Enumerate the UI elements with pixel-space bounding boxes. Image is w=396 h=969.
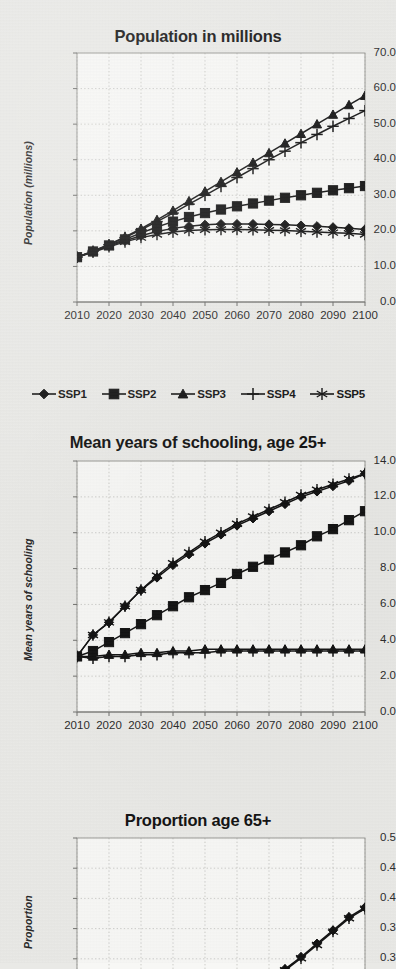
x-axis-tick-label: 2100 [352, 310, 378, 322]
y-axis-tick-label: 10.0 [327, 526, 396, 538]
chart-title-population: Population in millions [0, 28, 396, 45]
triangle-marker [170, 386, 196, 402]
x-axis-tick-label: 2040 [160, 720, 186, 732]
y-axis-tick-label: 30.0 [327, 189, 396, 201]
y-axis-tick-label: 14.0 [327, 455, 396, 467]
x-axis-tick-label: 2070 [256, 310, 282, 322]
plot-background [77, 838, 365, 969]
plot-area-schooling: 14.012.010.08.06.04.02.00.02010202020302… [0, 451, 396, 761]
legend-item-ssp1[interactable]: SSP1 [31, 386, 87, 402]
legend-item-ssp5[interactable]: SSP5 [309, 386, 365, 402]
y-axis-label-proportion65: Proportion [22, 895, 34, 949]
x-axis-tick-label: 2030 [128, 720, 154, 732]
x-axis-tick-label: 2070 [256, 720, 282, 732]
chart-legend: SSP1SSP2SSP3SSP4SSP5 [0, 384, 396, 404]
diamond-marker [31, 386, 57, 402]
chart-panel-schooling: Mean years of schooling, age 25+ 14.012.… [0, 434, 396, 761]
x-axis-tick-label: 2090 [320, 310, 346, 322]
y-axis-tick-label: 40.0 [327, 153, 396, 165]
y-axis-label-population: Population (millions) [22, 141, 34, 245]
y-axis-tick-label: 0.0 [327, 706, 396, 718]
y-axis-tick-label: 10.0 [327, 260, 396, 272]
x-axis-tick-label: 2050 [192, 720, 218, 732]
y-axis-tick-label: 0.0 [327, 296, 396, 308]
x-axis-tick-label: 2080 [288, 310, 314, 322]
legend-item-ssp2[interactable]: SSP2 [101, 386, 157, 402]
legend-item-ssp3[interactable]: SSP3 [170, 386, 226, 402]
x-axis-tick-label: 2010 [64, 720, 90, 732]
legend-label: SSP5 [336, 388, 365, 400]
y-axis-tick-label: 6.0 [327, 598, 396, 610]
y-axis-tick-label: 60.0 [327, 82, 396, 94]
plot-area-population: 70.060.050.040.030.020.010.00.0201020202… [0, 45, 396, 345]
asterisk-marker [309, 386, 335, 402]
y-axis-tick-label: 0.3 [327, 922, 396, 934]
legend-label: SSP4 [267, 388, 296, 400]
x-axis-tick-label: 2100 [352, 720, 378, 732]
x-axis-tick-label: 2020 [96, 310, 122, 322]
y-axis-tick-label: 0.5 [327, 832, 396, 844]
y-axis-tick-label: 50.0 [327, 118, 396, 130]
y-axis-label-schooling: Mean years of schooling [22, 538, 34, 661]
x-axis-tick-label: 2060 [224, 720, 250, 732]
x-axis-tick-label: 2050 [192, 310, 218, 322]
chart-panel-proportion65: Proportion age 65+ 0.50.40.40.30.3Propor… [0, 812, 396, 969]
y-axis-tick-label: 4.0 [327, 634, 396, 646]
chart-title-proportion65: Proportion age 65+ [0, 812, 396, 829]
plus-marker [240, 386, 266, 402]
x-axis-tick-label: 2090 [320, 720, 346, 732]
x-axis-tick-label: 2030 [128, 310, 154, 322]
legend-label: SSP2 [128, 388, 157, 400]
y-axis-tick-label: 0.4 [327, 892, 396, 904]
legend-item-ssp4[interactable]: SSP4 [240, 386, 296, 402]
legend-label: SSP1 [58, 388, 87, 400]
legend-label: SSP3 [197, 388, 226, 400]
y-axis-tick-label: 12.0 [327, 491, 396, 503]
chart-title-schooling: Mean years of schooling, age 25+ [0, 434, 396, 451]
plot-area-proportion65: 0.50.40.40.30.3Proportion [0, 829, 396, 969]
x-axis-tick-label: 2080 [288, 720, 314, 732]
x-axis-tick-label: 2060 [224, 310, 250, 322]
x-axis-tick-label: 2020 [96, 720, 122, 732]
square-marker [101, 386, 127, 402]
x-axis-tick-label: 2010 [64, 310, 90, 322]
y-axis-tick-label: 2.0 [327, 670, 396, 682]
chart-panel-population: Population in millions 70.060.050.040.03… [0, 28, 396, 345]
y-axis-tick-label: 0.4 [327, 862, 396, 874]
y-axis-tick-label: 70.0 [327, 47, 396, 59]
y-axis-tick-label: 8.0 [327, 562, 396, 574]
y-axis-tick-label: 0.3 [327, 953, 396, 965]
y-axis-tick-label: 20.0 [327, 225, 396, 237]
x-axis-tick-label: 2040 [160, 310, 186, 322]
